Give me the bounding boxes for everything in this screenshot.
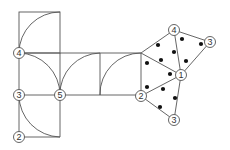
svg-text:4: 4 [16, 48, 21, 58]
svg-text:5: 5 [57, 90, 62, 100]
edge-2-3 [141, 96, 174, 120]
edge-3-1 [181, 42, 210, 75]
node-left-3: 3 [14, 90, 25, 101]
svg-text:1: 1 [178, 70, 183, 80]
diagram-canvas: 4 3 2 5 4 3 1 2 [0, 0, 230, 150]
node-tri-1: 1 [176, 70, 187, 81]
nodes: 4 3 2 5 4 3 1 2 [14, 25, 216, 143]
node-tri-4: 4 [169, 25, 180, 36]
arc-top-box [19, 12, 60, 53]
arc-4-to-5 [19, 53, 60, 95]
node-left-2: 2 [14, 132, 25, 143]
top-left-square [19, 12, 60, 53]
svg-text:4: 4 [171, 25, 176, 35]
node-mid-5: 5 [55, 90, 66, 101]
svg-text:2: 2 [138, 91, 143, 101]
node-tri-3-top: 3 [205, 37, 216, 48]
arc-3-to-bottom [19, 95, 60, 137]
svg-text:3: 3 [16, 90, 21, 100]
svg-text:2: 2 [16, 132, 21, 142]
svg-text:3: 3 [171, 115, 176, 125]
face-dots [145, 37, 203, 109]
node-tri-3-bottom: 3 [169, 115, 180, 126]
arc-5-to-top [60, 53, 100, 95]
arc-strip-right [100, 53, 141, 95]
node-tri-2: 2 [136, 91, 147, 102]
node-left-4: 4 [14, 48, 25, 59]
svg-text:3: 3 [207, 37, 212, 47]
edge-j-4 [141, 30, 174, 53]
